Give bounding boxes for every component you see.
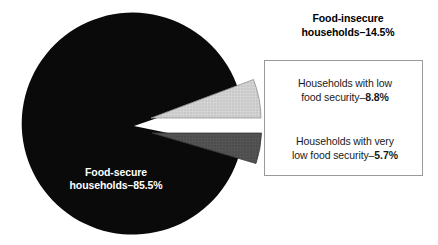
food-secure-label-line1: Food-secure (36, 166, 196, 179)
food-insecure-header-line2: households–14.5% (268, 26, 428, 40)
food-secure-label: Food-secure households–85.5% (36, 166, 196, 192)
pie-chart-figure: Food-secure households–85.5% Food-insecu… (0, 0, 438, 245)
callout-very-low-line2: low food security–5.7% (272, 148, 418, 162)
food-secure-label-line2: households–85.5% (36, 179, 196, 192)
callout-very-low-text: low food security– (292, 149, 374, 161)
callout-low-line1: Households with low (272, 76, 418, 90)
callout-low-line2: food security–8.8% (272, 90, 418, 104)
slice-food-secure (22, 13, 241, 235)
food-insecure-header-line1: Food-insecure (268, 12, 428, 26)
callout-low-text: food security– (301, 91, 365, 103)
callout-very-low-value: 5.7% (374, 149, 398, 161)
callout-low-food-security: Households with low food security–8.8% (272, 76, 418, 104)
callout-very-low-food-security: Households with very low food security–5… (272, 134, 418, 162)
food-insecure-header: Food-insecure households–14.5% (268, 12, 428, 39)
callout-very-low-line1: Households with very (272, 134, 418, 148)
callout-low-value: 8.8% (365, 91, 389, 103)
